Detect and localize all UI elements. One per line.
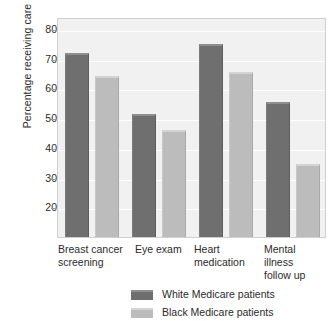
category-label-line: medication [194, 256, 245, 269]
bar-black-2 [229, 72, 253, 237]
y-axis-tick-labels: 20304050607080 [22, 0, 57, 321]
bar-white-0 [65, 53, 89, 237]
category-label-line: follow up [264, 269, 326, 282]
category-label-line: Heart [194, 243, 245, 256]
x-axis-category-labels: Breast cancerscreeningEye examHeartmedic… [57, 243, 326, 279]
category-label-0: Breast cancerscreening [58, 243, 123, 269]
legend: White Medicare patientsBlack Medicare pa… [131, 287, 334, 321]
bar-white-1 [132, 114, 156, 237]
bar-black-0 [95, 76, 119, 237]
bar-black-3 [296, 164, 320, 237]
bar-white-3 [266, 102, 290, 237]
category-label-1: Eye exam [135, 243, 182, 256]
bar-white-2 [199, 44, 223, 237]
legend-item-black[interactable]: Black Medicare patients [131, 305, 334, 320]
legend-label: White Medicare patients [162, 289, 275, 300]
legend-item-white[interactable]: White Medicare patients [131, 287, 334, 302]
bars-layer [58, 19, 325, 237]
category-label-line: Mental illness [264, 243, 326, 269]
bar-chart: Percentage receiving care 20304050607080… [0, 0, 334, 321]
plot-area [57, 18, 326, 238]
category-label-line: Eye exam [135, 243, 182, 256]
legend-swatch-icon [131, 290, 153, 300]
legend-swatch-icon [131, 308, 153, 318]
category-label-2: Heartmedication [194, 243, 245, 269]
bar-black-1 [162, 130, 186, 237]
category-label-3: Mental illnessfollow up [264, 243, 326, 282]
category-label-line: screening [58, 256, 123, 269]
legend-label: Black Medicare patients [162, 307, 273, 318]
category-label-line: Breast cancer [58, 243, 123, 256]
